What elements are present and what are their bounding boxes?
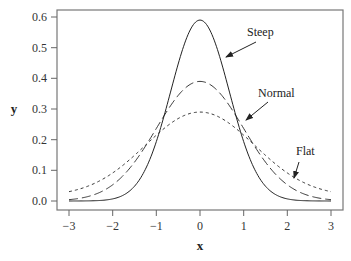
annotation-normal: Normal — [246, 86, 295, 120]
y-tick-label: 0.1 — [32, 163, 47, 177]
x-tick-label: −1 — [150, 219, 163, 233]
flat-curve — [69, 112, 331, 192]
y-tick-label: 0.3 — [32, 102, 47, 116]
annotation-flat: Flat — [294, 144, 315, 178]
steep-curve — [69, 20, 331, 201]
x-tick-label: −3 — [63, 219, 76, 233]
normal-label: Normal — [258, 86, 295, 100]
y-tick-label: 0.6 — [32, 10, 47, 24]
x-axis: −3 −2 −1 0 1 2 3 x — [63, 210, 334, 253]
arrow-icon — [294, 162, 299, 178]
y-tick-label: 0.0 — [32, 194, 47, 208]
arrow-icon — [226, 42, 256, 57]
x-axis-title: x — [197, 238, 204, 253]
y-tick-label: 0.4 — [32, 71, 47, 85]
x-tick-label: −2 — [106, 219, 119, 233]
y-axis: 0.0 0.1 0.2 0.3 0.4 0.5 0.6 y — [11, 10, 57, 208]
x-tick-label: 1 — [241, 219, 247, 233]
plot-frame — [57, 10, 343, 210]
flat-label: Flat — [296, 144, 315, 158]
y-tick-label: 0.5 — [32, 41, 47, 55]
annotation-steep: Steep — [226, 25, 274, 57]
steep-label: Steep — [247, 25, 274, 39]
y-axis-title: y — [11, 101, 18, 116]
x-tick-label: 0 — [197, 219, 203, 233]
curves — [69, 20, 331, 201]
arrow-icon — [246, 102, 268, 120]
x-tick-label: 2 — [284, 219, 290, 233]
y-tick-label: 0.2 — [32, 133, 47, 147]
density-chart: 0.0 0.1 0.2 0.3 0.4 0.5 0.6 y −3 −2 −1 0… — [0, 0, 351, 261]
x-tick-label: 3 — [328, 219, 334, 233]
